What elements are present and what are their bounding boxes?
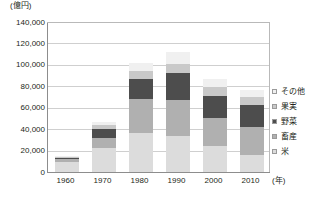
legend-swatch-icon <box>272 104 277 109</box>
gridline <box>48 86 270 87</box>
bar-segment <box>203 79 227 88</box>
bar-segment <box>55 157 79 158</box>
chart-legend: その他果実野菜畜産米 <box>272 84 319 159</box>
legend-swatch-icon <box>272 134 277 139</box>
bar-stack <box>166 22 190 172</box>
legend-item-label: 果実 <box>281 99 297 114</box>
bar-segment <box>92 125 116 129</box>
bar-segment <box>129 133 153 172</box>
legend-swatch-icon <box>272 89 277 94</box>
x-axis-tick-label: 1980 <box>120 176 160 185</box>
legend-item[interactable]: 米 <box>272 144 319 159</box>
bar-segment <box>240 105 264 128</box>
bar-segment <box>166 64 190 74</box>
bar-segment <box>166 52 190 64</box>
legend-item[interactable]: 畜産 <box>272 129 319 144</box>
bar-segment <box>92 122 116 125</box>
y-axis-tick-label: 140,000 <box>16 18 45 27</box>
legend-swatch-icon <box>272 149 277 154</box>
y-axis-tick-label: 0 <box>41 168 45 177</box>
gridline <box>48 65 270 66</box>
x-axis-unit-label: (年) <box>272 176 285 185</box>
legend-item[interactable]: その他 <box>272 84 319 99</box>
bar-segment <box>92 148 116 172</box>
y-axis-unit-label: (億円) <box>10 1 31 11</box>
bar-segment <box>129 99 153 133</box>
bar-segment <box>129 63 153 72</box>
legend-item-label: その他 <box>281 84 305 99</box>
legend-item-label: 米 <box>281 144 289 159</box>
bar-segment <box>166 100 190 135</box>
bar-segment <box>92 129 116 138</box>
bar-segment <box>55 156 79 157</box>
y-axis-tick-label: 60,000 <box>21 103 45 112</box>
bar-stack <box>92 22 116 172</box>
bar-stack <box>203 22 227 172</box>
y-axis-tick-label: 20,000 <box>21 146 45 155</box>
gridline <box>48 43 270 44</box>
bar-stack <box>240 22 264 172</box>
bar-segment <box>203 87 227 96</box>
legend-item-label: 野菜 <box>281 114 297 129</box>
x-axis-tick-label: 1960 <box>46 176 86 185</box>
bar-segment <box>55 159 79 162</box>
y-axis-tick-label: 100,000 <box>16 60 45 69</box>
bar-segment <box>203 118 227 146</box>
gridline <box>48 151 270 152</box>
bar-segment <box>166 73 190 100</box>
legend-swatch-icon <box>272 119 277 124</box>
legend-item[interactable]: 野菜 <box>272 114 319 129</box>
bar-segment <box>129 71 153 79</box>
bar-segment <box>240 127 264 155</box>
bar-stack <box>55 22 79 172</box>
plot-area <box>47 22 270 173</box>
bar-segment <box>240 97 264 105</box>
x-axis-tick-label: 2010 <box>231 176 271 185</box>
chart-container: (億円) 140,000120,000100,00080,00060,00040… <box>0 0 319 203</box>
x-axis-tick-label: 2000 <box>194 176 234 185</box>
bar-segment <box>92 138 116 149</box>
bar-segment <box>203 96 227 119</box>
y-axis-tick-label: 80,000 <box>21 82 45 91</box>
bar-segment <box>55 157 79 159</box>
bar-segment <box>240 90 264 98</box>
y-axis-tick-label: 120,000 <box>16 39 45 48</box>
legend-item[interactable]: 果実 <box>272 99 319 114</box>
y-axis-tick-label: 40,000 <box>21 125 45 134</box>
plot-frame-right <box>269 22 270 172</box>
plot-frame-top <box>47 22 269 23</box>
x-axis-tick-label: 1990 <box>157 176 197 185</box>
bar-segment <box>240 155 264 172</box>
legend-item-label: 畜産 <box>281 129 297 144</box>
bar-segment <box>55 162 79 172</box>
x-axis-tick-label: 1970 <box>83 176 123 185</box>
bar-segment <box>166 136 190 172</box>
bar-segment <box>203 146 227 172</box>
bar-stack <box>129 22 153 172</box>
gridline <box>48 108 270 109</box>
gridline <box>48 129 270 130</box>
bar-segment <box>129 79 153 99</box>
